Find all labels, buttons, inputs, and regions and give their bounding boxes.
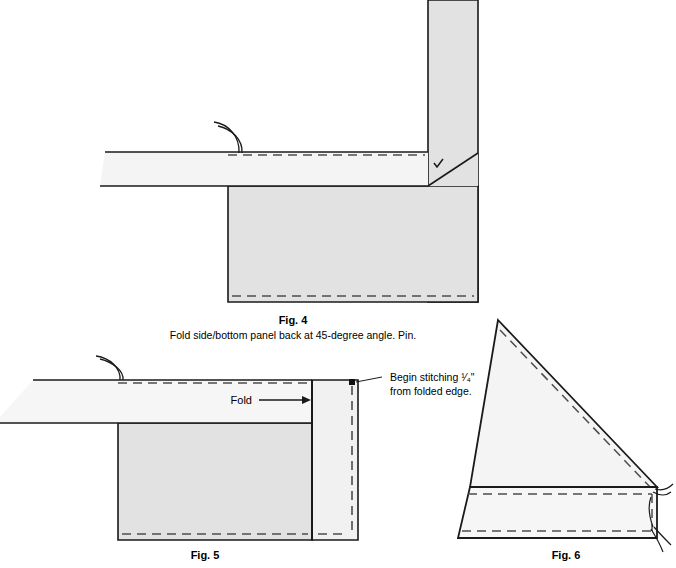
fig5-main-panel [118,423,312,540]
fig4-bottom-panel [228,186,478,302]
illustration-sheet: Fig. 4 Fold side/bottom panel back at 45… [0,0,676,568]
fig5-stitch-note-line2: from folded edge. [390,385,472,397]
fig5-fold-label: Fold [231,394,252,406]
fig4-side-band-face [100,152,428,186]
fig5-stitch-start-square [349,379,355,385]
fig5-label: Fig. 5 [191,549,220,561]
fig5-flap-face [0,380,312,423]
fig5-stitch-note-line1: Begin stitching ¹⁄₄" [390,371,475,383]
fig5-fold-allowance-strip [312,380,358,540]
fig4-label: Fig. 4 [279,314,309,326]
fig6-label: Fig. 6 [552,549,581,561]
fig4-caption: Fold side/bottom panel back at 45-degree… [170,329,416,341]
